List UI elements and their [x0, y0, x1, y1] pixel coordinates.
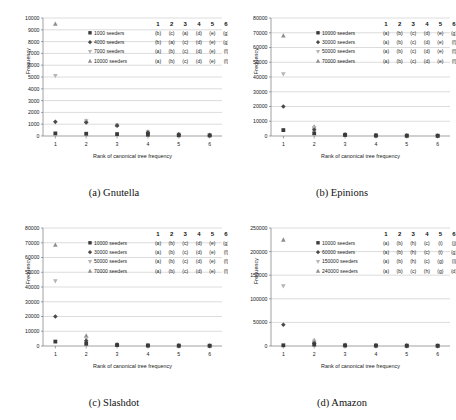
- data-point-square: [146, 344, 150, 348]
- data-point-triangle-up: [53, 21, 58, 25]
- y-tick-label: 50000: [253, 319, 268, 325]
- data-point-square: [343, 344, 347, 348]
- data-point-square: [436, 344, 440, 348]
- data-point-square: [53, 340, 57, 344]
- legend-cell: (e): [209, 240, 215, 246]
- legend-cell: (d): [196, 30, 202, 36]
- scatter-plot-b: 0100002000030000400005000060000700008000…: [228, 6, 456, 171]
- y-tick-label: 5000: [28, 74, 40, 80]
- y-tick-label: 50000: [253, 59, 268, 65]
- legend-cell: (a): [182, 30, 188, 36]
- legend-cell: (d): [196, 249, 202, 255]
- x-tick-label: 2: [313, 141, 316, 147]
- x-tick-label: 5: [177, 141, 180, 147]
- y-tick-label: 200000: [250, 249, 267, 255]
- legend-cell: (d): [424, 30, 430, 36]
- legend-cell: (c): [424, 249, 430, 255]
- y-tick-label: 10000: [25, 15, 40, 21]
- y-tick-label: 1000: [28, 121, 40, 127]
- legend-marker-triangle-down: [316, 260, 320, 264]
- legend-cell: (d): [196, 240, 202, 246]
- x-tick-label: 3: [116, 141, 119, 147]
- legend-cell: (a): [383, 268, 389, 274]
- legend-column-header: 1: [384, 21, 388, 27]
- y-tick-label: 7000: [28, 50, 40, 56]
- legend-marker-diamond: [316, 250, 320, 254]
- x-tick-label: 6: [436, 141, 439, 147]
- legend-marker-square: [316, 31, 319, 34]
- legend-cell: (f): [452, 48, 456, 54]
- scatter-plot-c: 0100002000030000400005000060000700008000…: [0, 216, 228, 381]
- legend-label: 10000 seeders: [94, 58, 128, 64]
- x-tick-label: 1: [54, 351, 57, 357]
- panel-caption-b: (b) Epinions: [228, 187, 456, 198]
- legend-cell: (c): [410, 58, 416, 64]
- legend-column-header: 4: [197, 231, 201, 237]
- plot-area-c: Frequency 010000200003000040000500006000…: [0, 216, 228, 381]
- legend-column-header: 4: [425, 231, 429, 237]
- legend-label: 30000 seeders: [322, 39, 356, 45]
- legend-label: 70000 seeders: [94, 268, 128, 274]
- legend-column-header: 5: [211, 21, 215, 27]
- legend-cell: (b): [397, 39, 403, 45]
- y-tick-label: 20000: [25, 313, 40, 319]
- data-point-diamond: [53, 314, 58, 319]
- legend-cell: (e): [209, 249, 215, 255]
- legend-column-header: 3: [184, 21, 188, 27]
- legend-cell: (b): [155, 39, 161, 45]
- y-tick-label: 30000: [253, 89, 268, 95]
- scatter-plot-d: 050000100000150000200000250000123456Rank…: [228, 216, 456, 381]
- legend-marker-triangle-up: [316, 59, 320, 63]
- legend-cell: (b): [169, 258, 175, 264]
- legend-cell: (d): [424, 58, 430, 64]
- legend-column-header: 6: [452, 21, 456, 27]
- legend-cell: (a): [169, 39, 175, 45]
- legend-column-header: 5: [211, 231, 215, 237]
- x-axis-label: Rank of canonical tree frequency: [93, 363, 172, 369]
- x-tick-label: 5: [405, 351, 408, 357]
- x-tick-label: 6: [208, 351, 211, 357]
- x-axis-label: Rank of canonical tree frequency: [321, 363, 400, 369]
- legend-marker-triangle-up: [88, 269, 92, 273]
- legend-cell: (c): [182, 58, 188, 64]
- legend-label: 10000 seeders: [322, 240, 356, 246]
- y-tick-label: 9000: [28, 27, 40, 33]
- legend-cell: (c): [169, 30, 175, 36]
- legend-cell: (h): [410, 249, 416, 255]
- legend-marker-square: [88, 31, 91, 34]
- data-point-square: [84, 342, 88, 346]
- legend-cell: (d): [451, 268, 456, 274]
- panel-caption-c: (c) Slashdot: [0, 397, 228, 408]
- panel-caption-d: (d) Amazon: [228, 397, 456, 408]
- legend-cell: (e): [437, 30, 443, 36]
- y-tick-label: 20000: [253, 103, 268, 109]
- legend-marker-triangle-up: [88, 59, 92, 63]
- legend-column-header: 5: [439, 231, 443, 237]
- plot-area-a: Frequency 010002000300040005000600070008…: [0, 6, 228, 171]
- legend-cell: (f): [452, 58, 456, 64]
- plot-area-b: Frequency 010000200003000040000500006000…: [228, 6, 456, 171]
- legend-column-header: 1: [384, 231, 388, 237]
- scatter-plot-a: 0100020003000400050006000700080009000100…: [0, 6, 228, 171]
- y-tick-label: 80000: [253, 15, 268, 21]
- data-point-diamond: [281, 104, 286, 109]
- legend-cell: (a): [383, 58, 389, 64]
- y-tick-label: 60000: [253, 44, 268, 50]
- x-axis-label: Rank of canonical tree frequency: [93, 153, 172, 159]
- legend-label: 50000 seeders: [94, 258, 128, 264]
- data-point-square: [405, 134, 409, 138]
- legend-cell: (c): [424, 258, 430, 264]
- legend-cell: (l): [452, 258, 456, 264]
- legend-cell: (e): [209, 39, 215, 45]
- legend-cell: (c): [424, 240, 430, 246]
- panel-d: Frequency 050000100000150000200000250000…: [228, 210, 456, 420]
- y-tick-label: 50000: [25, 269, 40, 275]
- x-tick-label: 6: [208, 141, 211, 147]
- legend-cell: (c): [182, 258, 188, 264]
- legend-label: 4000 seeders: [94, 39, 125, 45]
- y-tick-label: 0: [37, 133, 40, 139]
- x-tick-label: 4: [146, 141, 149, 147]
- data-point-diamond: [53, 120, 58, 125]
- legend-cell: (a): [383, 39, 389, 45]
- x-tick-label: 3: [344, 141, 347, 147]
